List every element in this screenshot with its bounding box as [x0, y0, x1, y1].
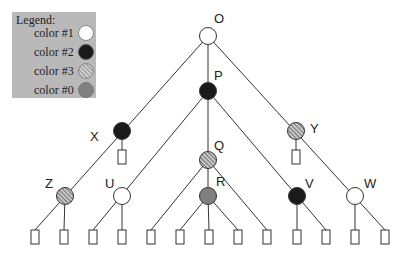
leaf-box — [322, 230, 330, 244]
node-o — [200, 28, 217, 45]
node-q — [200, 152, 217, 169]
legend-swatch-hatched-icon — [79, 64, 94, 79]
leaf-box — [263, 230, 271, 244]
leaf-box — [292, 150, 300, 164]
leaf-box — [147, 230, 155, 244]
leaf-box — [293, 230, 301, 244]
label-p: P — [214, 68, 223, 83]
legend-swatch-black-icon — [79, 45, 94, 60]
label-y: Y — [310, 121, 319, 136]
legend-swatch-gray-icon — [79, 83, 94, 98]
node-u — [114, 188, 131, 205]
leaf-box — [176, 230, 184, 244]
leaf-box — [89, 230, 97, 244]
leaf-box — [205, 230, 213, 244]
leaf-box — [31, 230, 39, 244]
node-x — [114, 123, 131, 140]
label-r: R — [216, 174, 225, 189]
legend-swatch-white-icon — [79, 26, 94, 41]
edge-p-v-leaf — [208, 91, 326, 230]
legend: Legend: color #1 color #2 color #3 color… — [12, 12, 96, 98]
edge-p-u-leaf — [93, 91, 208, 230]
label-w: W — [364, 176, 377, 191]
node-p — [200, 83, 217, 100]
label-o: O — [214, 11, 224, 26]
leaf-box — [118, 150, 126, 164]
label-v: V — [305, 176, 314, 191]
label-z: Z — [45, 176, 53, 191]
label-x: X — [90, 129, 99, 144]
node-r — [200, 188, 217, 205]
label-q: Q — [214, 138, 224, 153]
label-u: U — [105, 176, 114, 191]
leaf-box — [118, 230, 126, 244]
leaf-box — [60, 230, 68, 244]
node-y — [288, 123, 305, 140]
leaf-box — [381, 230, 389, 244]
legend-swatches — [12, 12, 96, 98]
leaf-box — [351, 230, 359, 244]
nodes — [57, 28, 364, 205]
node-w — [347, 188, 364, 205]
node-z — [57, 188, 74, 205]
leaf-box — [234, 230, 242, 244]
node-v — [289, 188, 306, 205]
